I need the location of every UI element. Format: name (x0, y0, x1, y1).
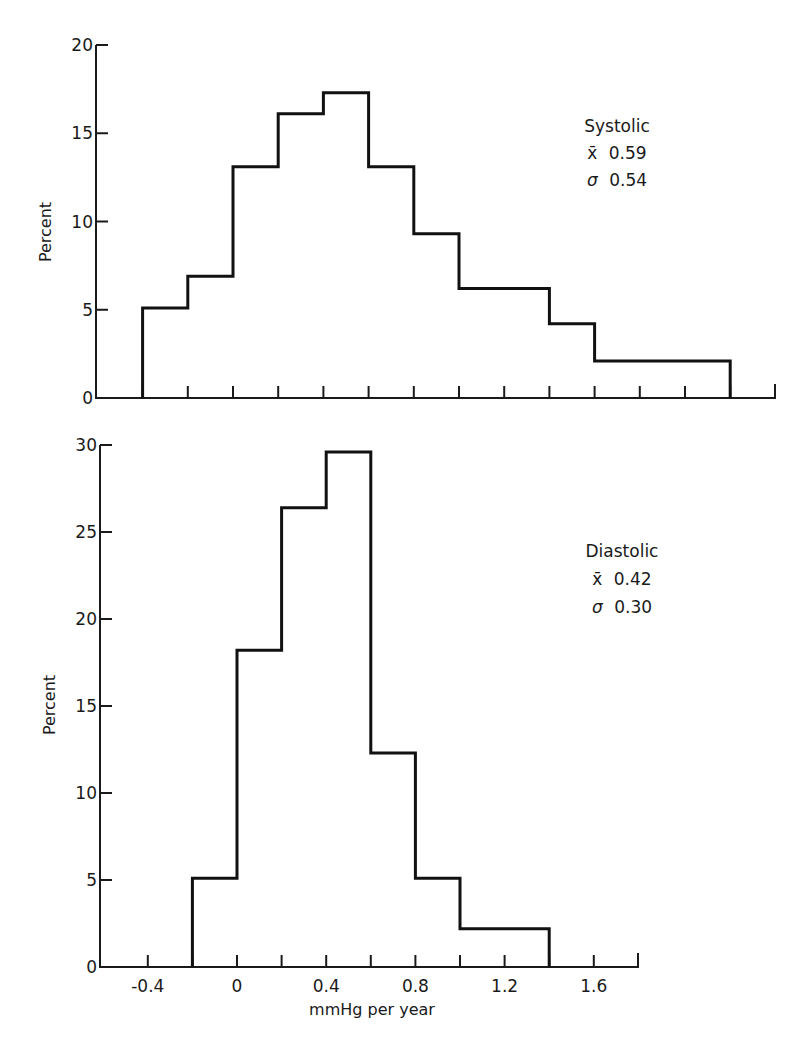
y-tick-label: 0 (86, 957, 97, 977)
diastolic-mean: x̄ 0.42 (592, 569, 651, 589)
x-tick-label: -0.4 (131, 976, 164, 996)
y-tick-label: 10 (71, 212, 93, 232)
systolic-stats-annotation: Systolic x̄ 0.59 σ 0.54 (584, 116, 650, 190)
diastolic-sd: σ 0.30 (592, 597, 652, 617)
systolic-sd: σ 0.54 (587, 170, 647, 190)
y-tick-label: 30 (75, 435, 97, 455)
y-tick-label: 10 (75, 783, 97, 803)
y-tick-label: 0 (82, 388, 93, 408)
systolic-mean: x̄ 0.59 (587, 143, 646, 163)
blood-pressure-change-histograms: 05101520 Percent Systolic x̄ 0.59 σ 0.54… (0, 0, 806, 1051)
sigma-symbol: σ (592, 597, 604, 617)
diastolic-label: Diastolic (586, 541, 659, 561)
y-tick-label: 15 (71, 123, 93, 143)
sigma-symbol: σ (587, 170, 599, 190)
diastolic-mean-value: 0.42 (614, 569, 652, 589)
mean-symbol: x̄ (587, 143, 597, 163)
systolic-sd-value: 0.54 (609, 170, 647, 190)
y-tick-label: 25 (75, 522, 97, 542)
y-tick-label: 15 (75, 696, 97, 716)
y-tick-label: 5 (86, 870, 97, 890)
figure-background (0, 0, 806, 1051)
y-tick-label: 5 (82, 300, 93, 320)
systolic-label: Systolic (584, 116, 650, 136)
x-axis-label: mmHg per year (309, 1000, 435, 1019)
y-tick-label: 20 (75, 609, 97, 629)
systolic-y-axis-label: Percent (36, 202, 55, 262)
mean-symbol: x̄ (592, 569, 602, 589)
diastolic-stats-annotation: Diastolic x̄ 0.42 σ 0.30 (586, 541, 659, 617)
x-tick-label: 1.2 (491, 976, 518, 996)
y-tick-label: 20 (71, 35, 93, 55)
diastolic-y-axis-label: Percent (40, 675, 59, 735)
x-tick-label: 1.6 (580, 976, 607, 996)
x-tick-label: 0 (232, 976, 243, 996)
x-tick-label: 0.8 (402, 976, 429, 996)
diastolic-sd-value: 0.30 (614, 597, 652, 617)
systolic-mean-value: 0.59 (609, 143, 647, 163)
x-tick-label: 0.4 (313, 976, 340, 996)
